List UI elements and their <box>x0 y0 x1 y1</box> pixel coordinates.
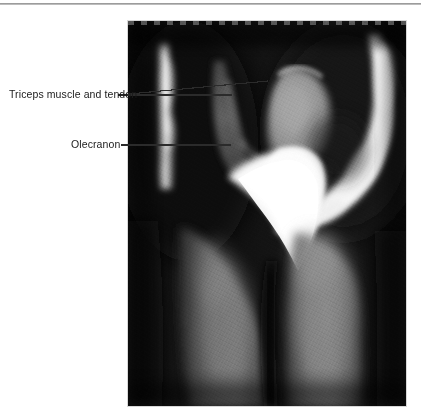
top-divider-rule <box>0 3 421 5</box>
mri-image <box>128 21 406 406</box>
label-olecranon: Olecranon <box>71 138 120 150</box>
mri-figure <box>128 21 406 406</box>
label-triceps-muscle-and-tendon: Triceps muscle and tendon <box>9 88 137 100</box>
figure-page: Triceps muscle and tendon Olecranon <box>0 0 421 419</box>
